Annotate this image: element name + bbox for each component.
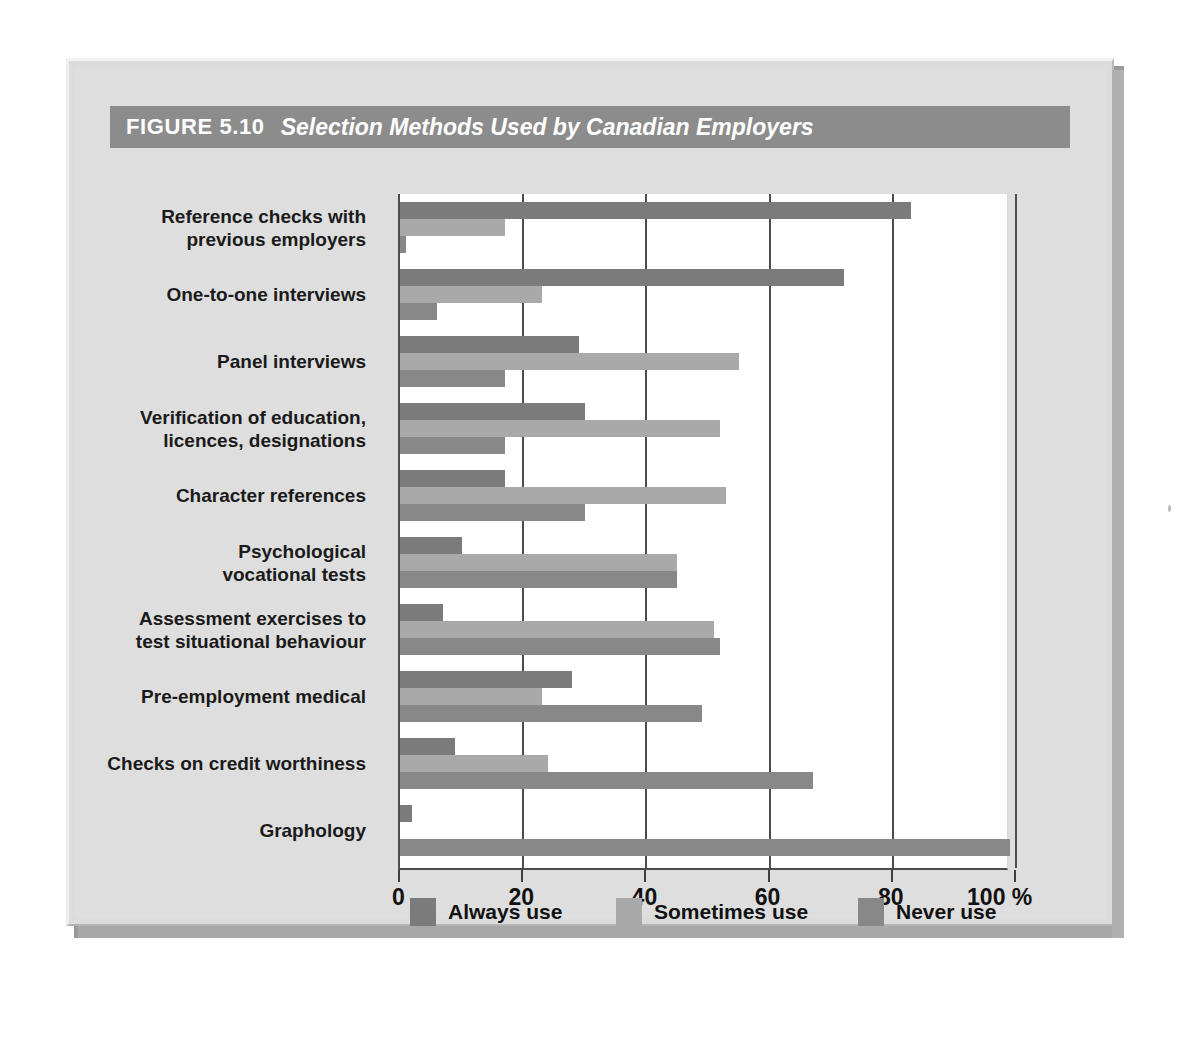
bar-always-use-9 [400, 805, 412, 822]
category-label-1: One-to-one interviews [36, 283, 366, 306]
category-label-line: Character references [36, 484, 366, 507]
bar-never-use-1 [400, 303, 437, 320]
category-label-3: Verification of education,licences, desi… [36, 406, 366, 452]
frame-bevel-right [1112, 70, 1124, 938]
x-tick-100 [1014, 870, 1016, 882]
legend-label: Sometimes use [654, 900, 808, 924]
category-label-line: Psychological [36, 540, 366, 563]
x-axis: 020406080100 % [398, 870, 1010, 884]
bar-never-use-6 [400, 638, 720, 655]
scanned-page: FIGURE 5.10 Selection Methods Used by Ca… [0, 0, 1196, 1064]
category-label-line: previous employers [36, 228, 366, 251]
bar-never-use-8 [400, 772, 813, 789]
bar-always-use-6 [400, 604, 443, 621]
bar-always-use-2 [400, 336, 579, 353]
legend-label: Never use [896, 900, 996, 924]
category-label-line: licences, designations [36, 429, 366, 452]
x-tick-60 [768, 870, 770, 882]
category-label-line: Reference checks with [36, 205, 366, 228]
category-label-line: test situational behaviour [36, 630, 366, 653]
category-label-line: Verification of education, [36, 406, 366, 429]
bar-always-use-1 [400, 269, 844, 286]
legend-item-always-use: Always use [410, 898, 562, 926]
figure-number: FIGURE 5.10 [126, 114, 265, 140]
page-speck [1168, 505, 1171, 512]
figure-title-bar: FIGURE 5.10 Selection Methods Used by Ca… [110, 106, 1070, 148]
gridline-40 [645, 194, 647, 868]
category-label-0: Reference checks withprevious employers [36, 205, 366, 251]
bar-sometimes-use-0 [400, 219, 505, 236]
category-label-line: Assessment exercises to [36, 607, 366, 630]
bar-chart: Reference checks withprevious employersO… [110, 180, 1070, 880]
category-label-7: Pre-employment medical [36, 685, 366, 708]
legend-swatch-icon [858, 898, 884, 926]
bar-always-use-0 [400, 202, 911, 219]
x-tick-20 [521, 870, 523, 882]
legend-item-never-use: Never use [858, 898, 996, 926]
legend-label: Always use [448, 900, 562, 924]
bar-always-use-3 [400, 403, 585, 420]
gridline-100 [1015, 194, 1017, 868]
category-label-line: Graphology [36, 819, 366, 842]
legend-item-sometimes-use: Sometimes use [616, 898, 808, 926]
bar-sometimes-use-5 [400, 554, 677, 571]
legend-swatch-icon [616, 898, 642, 926]
category-label-line: Pre-employment medical [36, 685, 366, 708]
bar-sometimes-use-2 [400, 353, 739, 370]
bar-always-use-7 [400, 671, 572, 688]
category-label-line: vocational tests [36, 563, 366, 586]
bar-never-use-4 [400, 504, 585, 521]
category-label-line: Panel interviews [36, 350, 366, 373]
bar-never-use-7 [400, 705, 702, 722]
bar-never-use-0 [400, 236, 406, 253]
category-label-line: Checks on credit worthiness [36, 752, 366, 775]
bar-never-use-3 [400, 437, 505, 454]
figure-title: Selection Methods Used by Canadian Emplo… [281, 114, 814, 141]
bar-never-use-5 [400, 571, 677, 588]
x-tick-0 [398, 870, 400, 882]
legend-swatch-icon [410, 898, 436, 926]
bar-always-use-4 [400, 470, 505, 487]
bar-sometimes-use-7 [400, 688, 542, 705]
category-label-4: Character references [36, 484, 366, 507]
bar-sometimes-use-1 [400, 286, 542, 303]
bar-sometimes-use-4 [400, 487, 726, 504]
category-label-line: One-to-one interviews [36, 283, 366, 306]
gridline-80 [892, 194, 894, 868]
bar-never-use-2 [400, 370, 505, 387]
x-tick-80 [891, 870, 893, 882]
gridline-60 [769, 194, 771, 868]
category-label-2: Panel interviews [36, 350, 366, 373]
plot-area [398, 194, 1008, 870]
category-label-5: Psychologicalvocational tests [36, 540, 366, 586]
chart-legend: Always useSometimes useNever use [110, 898, 1070, 934]
category-label-9: Graphology [36, 819, 366, 842]
bar-sometimes-use-6 [400, 621, 714, 638]
bar-never-use-9 [400, 839, 1010, 856]
x-tick-40 [644, 870, 646, 882]
bar-sometimes-use-8 [400, 755, 548, 772]
bar-always-use-8 [400, 738, 455, 755]
bar-sometimes-use-3 [400, 420, 720, 437]
category-label-8: Checks on credit worthiness [36, 752, 366, 775]
bar-always-use-5 [400, 537, 462, 554]
category-label-6: Assessment exercises totest situational … [36, 607, 366, 653]
